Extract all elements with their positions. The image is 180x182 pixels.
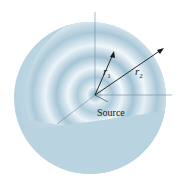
- spherical-wave-diagram: r1 r2 Source: [0, 0, 180, 182]
- r2-arrowhead-icon: [157, 48, 164, 54]
- source-label: Source: [97, 107, 125, 118]
